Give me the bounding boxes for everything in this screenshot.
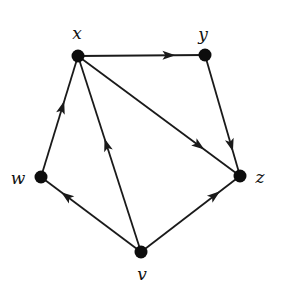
edge-y-to-z [205,55,240,176]
edge-w-to-x [41,56,78,177]
node-w [35,171,48,184]
node-label-y: y [198,26,208,43]
node-y [199,49,212,62]
nodes-group [35,49,247,259]
node-label-w: w [11,170,26,187]
edge-v-to-w [41,177,141,252]
edge-v-to-z [141,176,240,252]
edge-x-to-z [78,56,240,176]
node-x [72,50,85,63]
node-v [135,246,148,259]
node-label-x: x [72,25,82,42]
directed-graph [0,0,282,283]
node-label-z: z [256,169,265,186]
arrowhead-icon [225,138,237,153]
edges-group [41,51,240,252]
edge-v-to-x [78,56,141,252]
arrowhead-icon [191,138,207,153]
node-z [234,170,247,183]
node-label-v: v [137,266,147,283]
arrowhead-icon [56,100,68,115]
edge-x-to-y [78,55,205,56]
arrowhead-icon [100,137,113,152]
